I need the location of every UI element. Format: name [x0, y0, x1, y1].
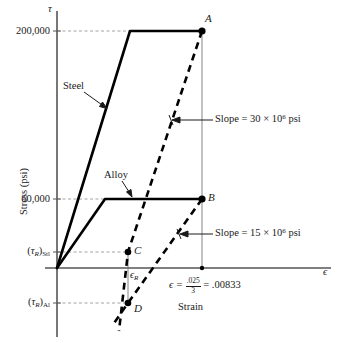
- slope-alloy-text: Slope = 15 × 10: [215, 227, 282, 238]
- strain-fraction: .0253: [186, 277, 201, 295]
- reference-lines: [128, 31, 202, 303]
- strain-equation: ϵ = .0253 = .00833: [169, 277, 241, 295]
- alloy-curve-label: Alloy: [104, 170, 128, 181]
- slope-steel-text: Slope = 30 × 10: [215, 113, 282, 124]
- point-label-d: D: [134, 303, 142, 314]
- y-tick-label-tauR-al: (τR)Al: [0, 297, 50, 309]
- strain-equation-tail: = .00833: [201, 279, 241, 290]
- marker-point-b: [198, 195, 205, 202]
- marker-point-d: [125, 300, 132, 307]
- x-axis-title: Strain: [178, 302, 203, 313]
- tauR-al-material: Al: [43, 301, 50, 309]
- residual-strain-label: ϵR: [130, 270, 138, 282]
- y-tick-label-tauR-stl: (τR)Stl: [0, 246, 50, 258]
- helper-lines: [57, 31, 200, 303]
- steel-curve: [57, 31, 202, 268]
- y-axis-symbol: τ: [48, 4, 52, 15]
- alloy-leader-arrowhead: [127, 190, 133, 198]
- steel-curve-label: Steel: [63, 81, 84, 92]
- slope-alloy-unit: psi: [286, 227, 301, 238]
- slope-steel-leader: [169, 115, 213, 125]
- data-point-markers: [125, 27, 206, 306]
- tauR-stl-material: Stl: [42, 250, 50, 258]
- slope-steel-annotation: Slope = 30 × 106 psi: [215, 114, 301, 125]
- slope-alloy-annotation: Slope = 15 × 106 psi: [215, 228, 301, 239]
- y-tick-label-60000: 60,000: [0, 194, 50, 205]
- marker-strain-on-axis: [200, 266, 204, 270]
- y-tick-label-200000: 200,000: [0, 26, 50, 37]
- marker-point-c: [125, 249, 132, 256]
- slope-steel-unit: psi: [286, 113, 301, 124]
- slope-steel-arrowhead: [172, 117, 180, 123]
- residual-strain-subscript: R: [134, 274, 138, 282]
- alloy-leader: [122, 181, 132, 197]
- strain-equation-lead: ϵ =: [169, 279, 186, 290]
- marker-point-a: [198, 27, 205, 34]
- point-label-b: B: [208, 192, 215, 203]
- point-label-a: A: [205, 13, 212, 24]
- slope-alloy-leader: [177, 229, 213, 239]
- slope-alloy-arrowhead: [180, 231, 188, 237]
- y-axis-title: Stress (psi): [18, 168, 29, 215]
- x-axis-symbol: ϵ: [323, 267, 327, 278]
- steel-leader: [84, 92, 107, 109]
- strain-fraction-denominator: 3: [186, 287, 201, 296]
- point-label-c: C: [134, 245, 141, 256]
